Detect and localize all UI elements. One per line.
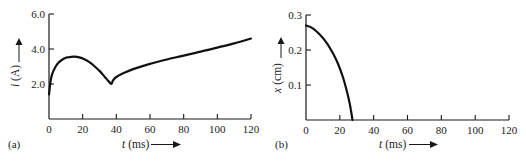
x-tick-label: 120 [243, 123, 260, 135]
x-tick-label: 0 [46, 123, 52, 135]
y-tick-label: 0.1 [288, 79, 302, 91]
x-tick-label: 60 [145, 123, 157, 135]
arrow-right-icon [430, 141, 438, 148]
y-tick-label: 4.0 [31, 43, 45, 55]
panel-b-x-label: t(ms) [379, 138, 438, 151]
x-tick-label: 120 [501, 124, 518, 136]
panel-a-label: (a) [8, 138, 21, 151]
x-tick-label: 20 [334, 124, 346, 136]
panel-a-current-curve [49, 39, 251, 95]
panel-a-current-chart: 020406080100120 2.04.06.0 i(A) t(ms) (a) [8, 8, 260, 151]
x-tick-label: 60 [402, 124, 414, 136]
panel-a-x-var: t [122, 138, 126, 150]
svg-text:t(ms): t(ms) [379, 138, 406, 151]
panel-a-y-label: i(A) [9, 38, 23, 87]
panel-a-x-unit: (ms) [128, 138, 149, 151]
panel-a-x-label: t(ms) [122, 138, 181, 151]
panel-b-x-ticks: 020406080100120 [303, 115, 518, 136]
panel-b-y-ticks: 0.10.20.3 [288, 9, 311, 91]
svg-text:t(ms): t(ms) [122, 138, 149, 151]
panel-a-y-unit: (A) [9, 65, 22, 81]
x-tick-label: 100 [209, 123, 226, 135]
panel-b-position-curve [306, 26, 353, 121]
panel-b-x-unit: (ms) [385, 138, 406, 151]
arrow-up-icon [16, 38, 23, 45]
panel-b-position-chart: 020406080100120 0.10.20.3 x(cm) t(ms) (b… [271, 9, 518, 151]
x-tick-label: 100 [467, 124, 484, 136]
x-tick-label: 40 [368, 124, 380, 136]
panel-b-x-var: t [379, 138, 383, 150]
panel-b-y-unit: (cm) [271, 63, 284, 85]
panel-b-y-label: x(cm) [271, 37, 285, 94]
y-tick-label: 0.2 [288, 44, 302, 56]
arrow-up-icon [278, 37, 285, 44]
x-tick-label: 40 [111, 123, 123, 135]
panel-b-y-var: x [271, 87, 283, 94]
x-tick-label: 0 [303, 124, 309, 136]
figure: 020406080100120 2.04.06.0 i(A) t(ms) (a)… [0, 0, 526, 163]
x-tick-label: 80 [178, 123, 190, 135]
x-tick-label: 80 [436, 124, 448, 136]
x-tick-label: 20 [77, 123, 89, 135]
svg-text:i(A): i(A) [9, 65, 22, 87]
svg-text:x(cm): x(cm) [271, 63, 284, 94]
y-tick-label: 0.3 [288, 9, 302, 21]
arrow-right-icon [173, 141, 181, 148]
y-tick-label: 2.0 [31, 78, 45, 90]
panel-a-x-ticks: 020406080100120 [46, 114, 260, 135]
panel-a-y-var: i [9, 84, 21, 87]
y-tick-label: 6.0 [31, 8, 45, 20]
panel-b-label: (b) [275, 138, 288, 151]
